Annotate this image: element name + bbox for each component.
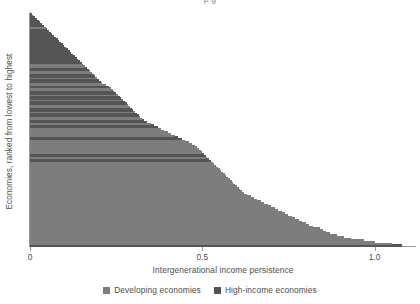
x-axis-title: Intergenerational income persistence	[30, 265, 416, 275]
x-tick-label: 0.5	[196, 252, 208, 262]
legend-label-high-income: High-income economies	[225, 285, 317, 295]
legend-item-developing: Developing economies	[103, 285, 201, 295]
legend-swatch-developing-icon	[103, 287, 110, 294]
legend-swatch-high-income-icon	[214, 287, 221, 294]
clipped-title: p g	[0, 0, 420, 6]
bar-series	[30, 13, 416, 246]
x-tick	[202, 247, 203, 251]
chart-figure: p g Economies, ranked from lowest to hig…	[0, 0, 420, 304]
y-axis-title-text: Economies, ranked from lowest to highest	[5, 53, 14, 209]
x-tick	[30, 247, 31, 251]
chart-legend: Developing economies High-income economi…	[0, 285, 420, 295]
x-tick-label: 1.0	[369, 252, 381, 262]
bar	[30, 13, 32, 15]
plot-area	[30, 13, 416, 246]
legend-label-developing: Developing economies	[114, 285, 201, 295]
y-axis-title: Economies, ranked from lowest to highest	[2, 18, 16, 244]
x-tick-label: 0	[28, 252, 33, 262]
legend-item-high-income: High-income economies	[214, 285, 317, 295]
x-tick	[375, 247, 376, 251]
